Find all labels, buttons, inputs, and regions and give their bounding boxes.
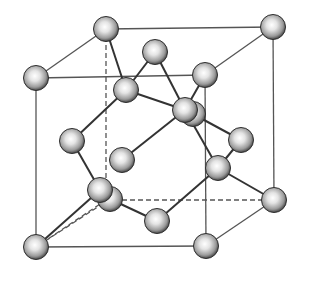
atom-sphere <box>229 128 254 153</box>
atom-sphere <box>262 188 287 213</box>
atom-sphere <box>145 209 170 234</box>
atom-sphere <box>24 66 49 91</box>
atom-sphere <box>24 235 49 260</box>
atom-sphere <box>173 98 198 123</box>
atom-sphere <box>114 78 139 103</box>
atom-sphere <box>206 156 231 181</box>
atom-sphere <box>194 234 219 259</box>
atom-sphere <box>110 148 135 173</box>
cell-edge <box>36 246 206 247</box>
cell-edge <box>273 27 274 200</box>
atom-sphere <box>60 129 85 154</box>
atom-sphere <box>261 15 286 40</box>
atom-sphere <box>143 40 168 65</box>
crystal-lattice-svg <box>0 0 311 294</box>
atom-sphere <box>88 178 113 203</box>
atom-sphere <box>94 17 119 42</box>
atom-sphere <box>193 63 218 88</box>
diamond-crystal-diagram: Diamond cubic crystal structure (unit ce… <box>0 0 311 294</box>
cell-edge <box>205 75 206 246</box>
cell-edge <box>106 27 273 29</box>
bond-hidden <box>36 199 110 247</box>
